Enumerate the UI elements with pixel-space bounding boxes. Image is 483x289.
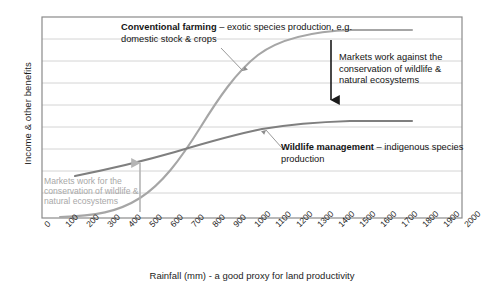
wildlife-management-label-bold: Wildlife management [281,142,374,152]
markets-against-note: Markets work against the conservation of… [339,52,467,87]
markets-for-note: Markets work for the conservation of wil… [44,176,148,207]
chart-figure: Income & other benefits Rainfall (mm) - … [0,0,483,289]
conventional-farming-label-bold: Conventional farming [121,22,217,32]
conventional-farming-label: Conventional farming – exotic species pr… [121,22,371,45]
wildlife-management-label: Wildlife management – indigenous species… [281,142,471,165]
y-axis-title: Income & other benefits [22,29,33,199]
x-axis-title: Rainfall (mm) - a good proxy for land pr… [40,270,464,281]
